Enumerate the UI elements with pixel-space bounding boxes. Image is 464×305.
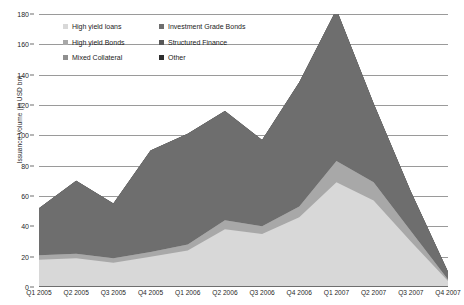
legend-label: Other (168, 54, 186, 61)
legend-label: Mixed Collateral (72, 54, 122, 61)
y-tick-label-80: 80 (21, 162, 29, 169)
legend-item-investment-grade-bonds[interactable]: Investment Grade Bonds (159, 23, 259, 30)
legend-swatch-icon (159, 55, 164, 60)
legend-label: High yield loans (72, 23, 121, 30)
legend-item-high-yield-loans[interactable]: High yield loans (63, 23, 159, 30)
x-tick-label-9: Q2 2007 (361, 289, 386, 296)
x-tick-label-8: Q1 2007 (324, 289, 349, 296)
y-tick-180 (30, 14, 34, 15)
legend-label: High yield Bonds (72, 39, 125, 46)
legend-item-structured-finance[interactable]: Structured Finance (159, 39, 259, 46)
legend-item-mixed-collateral[interactable]: Mixed Collateral (63, 54, 159, 61)
y-axis-labels: 020406080100120140160180 (0, 14, 34, 287)
x-tick-label-0: Q1 2005 (26, 289, 51, 296)
chart-legend: High yield loansInvestment Grade BondsHi… (63, 19, 259, 66)
y-tick-100 (30, 135, 34, 136)
y-tick-label-160: 160 (17, 41, 29, 48)
legend-swatch-icon (63, 55, 68, 60)
legend-label: Structured Finance (168, 39, 227, 46)
legend-swatch-icon (159, 24, 164, 29)
y-tick-140 (30, 74, 34, 75)
y-tick-label-180: 180 (17, 11, 29, 18)
legend-item-other[interactable]: Other (159, 54, 259, 61)
legend-swatch-icon (159, 40, 164, 45)
y-tick-120 (30, 105, 34, 106)
x-tick-label-2: Q3 2005 (101, 289, 126, 296)
y-tick-160 (30, 44, 34, 45)
y-tick-label-140: 140 (17, 71, 29, 78)
x-axis-line (39, 286, 448, 287)
y-tick-label-120: 120 (17, 102, 29, 109)
x-tick-label-4: Q1 2006 (175, 289, 200, 296)
legend-item-high-yield-bonds[interactable]: High yield Bonds (63, 39, 159, 46)
x-axis-labels: Q1 2005Q2 2005Q3 2005Q4 2005Q1 2006Q2 20… (39, 289, 448, 303)
y-tick-80 (30, 165, 34, 166)
x-tick-label-1: Q2 2005 (64, 289, 89, 296)
x-tick-label-3: Q4 2005 (138, 289, 163, 296)
legend-swatch-icon (63, 24, 68, 29)
y-tick-40 (30, 226, 34, 227)
legend-swatch-icon (63, 40, 68, 45)
x-tick-label-10: Q3 2007 (398, 289, 423, 296)
y-tick-label-40: 40 (21, 223, 29, 230)
y-tick-60 (30, 196, 34, 197)
y-tick-0 (30, 287, 34, 288)
y-tick-20 (30, 256, 34, 257)
x-tick-label-5: Q2 2006 (212, 289, 237, 296)
y-tick-label-60: 60 (21, 193, 29, 200)
x-tick-label-7: Q4 2006 (287, 289, 312, 296)
x-tick-label-11: Q4 2007 (435, 289, 460, 296)
y-tick-label-20: 20 (21, 253, 29, 260)
x-tick-label-6: Q3 2006 (249, 289, 274, 296)
y-tick-label-100: 100 (17, 132, 29, 139)
area-chart: Issuance Volume (in USD bn) 020406080100… (0, 0, 464, 305)
legend-label: Investment Grade Bonds (168, 23, 245, 30)
